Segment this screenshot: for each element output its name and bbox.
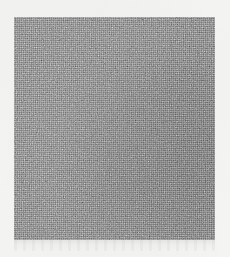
compression-ringing-artifact <box>14 240 215 251</box>
grain-noise-layer <box>14 17 215 240</box>
image-canvas: A square patch of uniform grayscale nois… <box>0 0 230 257</box>
noise-texture-patch <box>14 17 215 240</box>
